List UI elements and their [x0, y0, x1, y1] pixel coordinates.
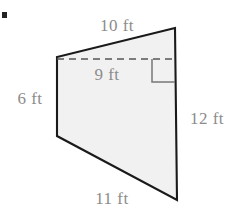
figure-canvas: 10 ft 9 ft 6 ft 12 ft 11 ft: [0, 0, 236, 210]
label-left-side: 6 ft: [17, 90, 42, 107]
label-right-side: 12 ft: [190, 110, 224, 127]
label-top-side: 10 ft: [100, 17, 134, 34]
trapezoid-shape: [57, 28, 177, 200]
label-bottom-side: 11 ft: [95, 190, 129, 207]
label-height: 9 ft: [94, 66, 119, 83]
